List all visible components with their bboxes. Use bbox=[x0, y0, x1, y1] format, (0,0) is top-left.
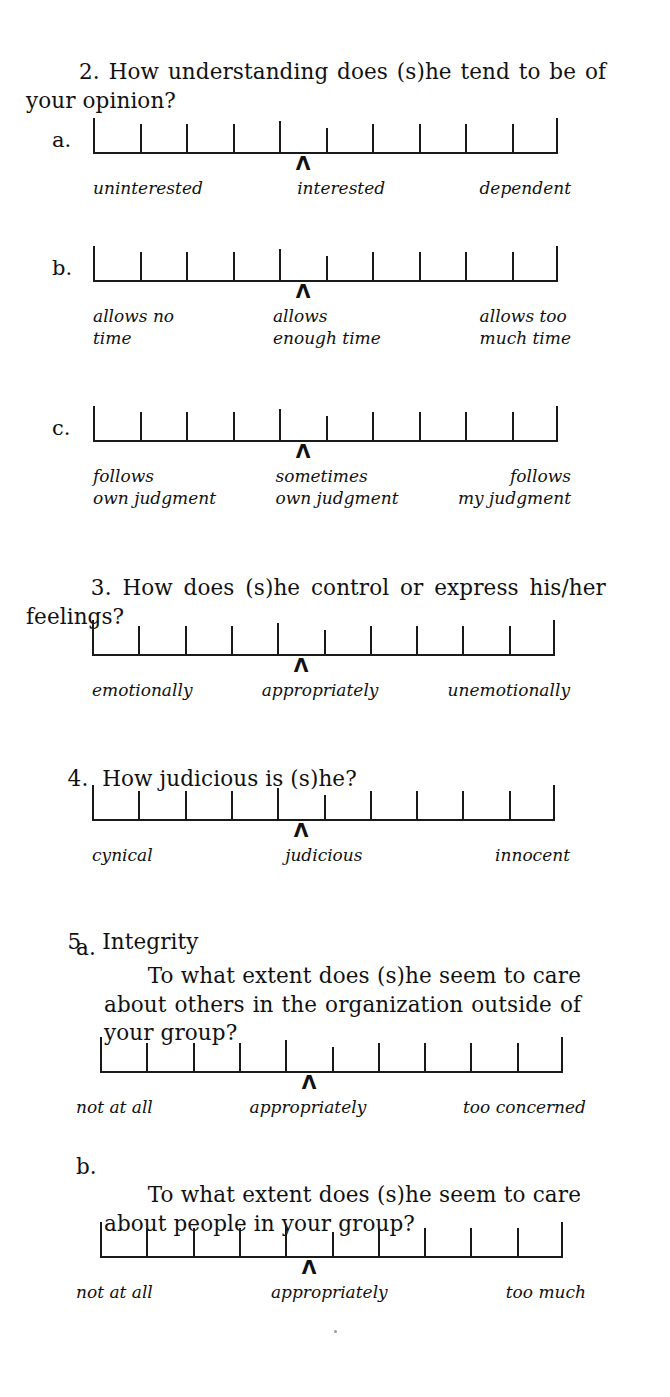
scale-tick[interactable] bbox=[186, 412, 188, 442]
scale-tick[interactable] bbox=[100, 1037, 102, 1073]
scan-speck bbox=[334, 1330, 337, 1333]
scale-tick[interactable] bbox=[553, 785, 555, 821]
scale-tick[interactable] bbox=[277, 788, 279, 821]
rating-scale-2a[interactable]: Λ bbox=[93, 118, 558, 154]
scale-tick[interactable] bbox=[419, 412, 421, 442]
scale-tick[interactable] bbox=[92, 620, 94, 656]
rating-scale-3[interactable]: Λ bbox=[92, 620, 555, 656]
scale-tick[interactable] bbox=[140, 252, 142, 282]
scale-tick[interactable] bbox=[332, 1232, 334, 1258]
scale-tick[interactable] bbox=[462, 626, 464, 656]
scale-tick[interactable] bbox=[93, 406, 95, 442]
scale-tick[interactable] bbox=[378, 1043, 380, 1073]
anchor-left: allows no time bbox=[93, 306, 174, 350]
scale-tick[interactable] bbox=[186, 124, 188, 154]
scale-tick[interactable] bbox=[509, 791, 511, 821]
scale-tick[interactable] bbox=[233, 412, 235, 442]
scale-tick[interactable] bbox=[419, 252, 421, 282]
scale-tick[interactable] bbox=[372, 412, 374, 442]
scale-tick[interactable] bbox=[556, 118, 558, 154]
scale-tick[interactable] bbox=[509, 626, 511, 656]
scale-tick[interactable] bbox=[193, 1043, 195, 1073]
anchors-3: emotionally appropriately unemotionally bbox=[92, 680, 570, 702]
scale-tick[interactable] bbox=[470, 1043, 472, 1073]
scale-tick[interactable] bbox=[231, 791, 233, 821]
scale-tick[interactable] bbox=[140, 412, 142, 442]
scale-tick[interactable] bbox=[462, 791, 464, 821]
scale-tick[interactable] bbox=[465, 252, 467, 282]
scale-tick[interactable] bbox=[233, 124, 235, 154]
scale-tick[interactable] bbox=[277, 623, 279, 656]
anchor-right: follows my judgment bbox=[458, 466, 571, 510]
scale-tick[interactable] bbox=[186, 252, 188, 282]
rating-scale-2c[interactable]: Λ bbox=[93, 406, 558, 442]
rating-scale-5a[interactable]: Λ bbox=[100, 1037, 563, 1073]
scale-tick[interactable] bbox=[279, 121, 281, 154]
scale-tick[interactable] bbox=[517, 1228, 519, 1258]
scale-tick[interactable] bbox=[138, 791, 140, 821]
scale-tick[interactable] bbox=[424, 1043, 426, 1073]
item-2c-letter: c. bbox=[52, 418, 70, 439]
scale-tick[interactable] bbox=[146, 1228, 148, 1258]
scale-tick[interactable] bbox=[326, 128, 328, 154]
scale-tick[interactable] bbox=[239, 1043, 241, 1073]
scale-tick[interactable] bbox=[512, 124, 514, 154]
scale-tick[interactable] bbox=[553, 620, 555, 656]
scale-tick[interactable] bbox=[517, 1043, 519, 1073]
rating-scale-5b[interactable]: Λ bbox=[100, 1222, 563, 1258]
scale-tick[interactable] bbox=[138, 626, 140, 656]
scale-marker-icon: Λ bbox=[302, 1073, 317, 1092]
scale-marker-icon: Λ bbox=[302, 1258, 317, 1277]
scale-marker-icon: Λ bbox=[296, 154, 311, 173]
scale-tick[interactable] bbox=[324, 795, 326, 821]
scale-tick[interactable] bbox=[372, 124, 374, 154]
anchor-right: dependent bbox=[479, 178, 571, 200]
scale-tick[interactable] bbox=[465, 124, 467, 154]
anchor-center: judicious bbox=[285, 845, 362, 867]
scale-tick[interactable] bbox=[512, 412, 514, 442]
scale-tick[interactable] bbox=[92, 785, 94, 821]
scale-tick[interactable] bbox=[193, 1228, 195, 1258]
scale-tick[interactable] bbox=[146, 1043, 148, 1073]
scale-tick[interactable] bbox=[378, 1228, 380, 1258]
scale-tick[interactable] bbox=[233, 252, 235, 282]
scale-tick[interactable] bbox=[324, 630, 326, 656]
scale-tick[interactable] bbox=[326, 256, 328, 282]
scale-tick[interactable] bbox=[419, 124, 421, 154]
scale-tick[interactable] bbox=[185, 626, 187, 656]
scale-tick[interactable] bbox=[372, 252, 374, 282]
scale-tick[interactable] bbox=[279, 409, 281, 442]
question-2-body: How understanding does (s)he tend to be … bbox=[26, 59, 613, 112]
scale-tick[interactable] bbox=[285, 1040, 287, 1073]
scale-tick[interactable] bbox=[332, 1047, 334, 1073]
question-2-number: 2. bbox=[79, 59, 100, 84]
scale-tick[interactable] bbox=[512, 252, 514, 282]
scale-tick[interactable] bbox=[556, 406, 558, 442]
anchors-2b: allows no time allows enough time allows… bbox=[93, 306, 571, 350]
scale-tick[interactable] bbox=[561, 1037, 563, 1073]
scale-tick[interactable] bbox=[416, 626, 418, 656]
scale-tick[interactable] bbox=[285, 1225, 287, 1258]
scale-tick[interactable] bbox=[140, 124, 142, 154]
scale-tick[interactable] bbox=[279, 249, 281, 282]
scale-tick[interactable] bbox=[465, 412, 467, 442]
scale-tick[interactable] bbox=[326, 416, 328, 442]
anchor-right: too concerned bbox=[463, 1097, 586, 1119]
scale-tick[interactable] bbox=[561, 1222, 563, 1258]
scale-tick[interactable] bbox=[93, 246, 95, 282]
scale-tick[interactable] bbox=[470, 1228, 472, 1258]
scale-tick[interactable] bbox=[239, 1228, 241, 1258]
scale-tick[interactable] bbox=[556, 246, 558, 282]
rating-scale-2b[interactable]: Λ bbox=[93, 246, 558, 282]
scale-tick[interactable] bbox=[231, 626, 233, 656]
scale-tick[interactable] bbox=[93, 118, 95, 154]
scale-tick[interactable] bbox=[370, 626, 372, 656]
anchor-right: too much bbox=[506, 1282, 586, 1304]
item-2a-letter: a. bbox=[52, 130, 71, 151]
scale-tick[interactable] bbox=[416, 791, 418, 821]
scale-tick[interactable] bbox=[185, 791, 187, 821]
rating-scale-4[interactable]: Λ bbox=[92, 785, 555, 821]
scale-tick[interactable] bbox=[424, 1228, 426, 1258]
scale-tick[interactable] bbox=[100, 1222, 102, 1258]
scale-tick[interactable] bbox=[370, 791, 372, 821]
